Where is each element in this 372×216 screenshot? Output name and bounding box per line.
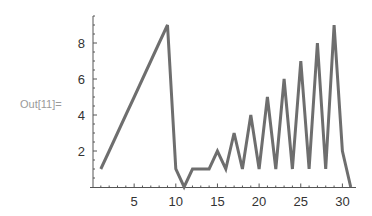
y-tick-label: 4 [78, 108, 85, 123]
data-line [101, 25, 351, 187]
x-tick-label: 10 [169, 194, 183, 209]
tick-labels: 510152025302468 [78, 36, 350, 209]
x-tick-label: 30 [335, 194, 349, 209]
x-tick-label: 20 [252, 194, 266, 209]
y-tick-label: 8 [78, 36, 85, 51]
x-tick-label: 15 [210, 194, 224, 209]
x-tick-label: 5 [131, 194, 138, 209]
y-tick-label: 2 [78, 144, 85, 159]
y-tick-label: 6 [78, 72, 85, 87]
x-tick-label: 25 [294, 194, 308, 209]
line-chart: 510152025302468 [0, 0, 372, 216]
